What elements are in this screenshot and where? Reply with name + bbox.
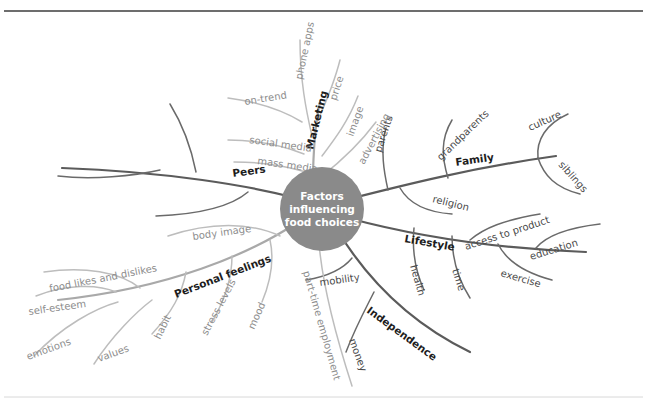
sublabel-time: time — [450, 267, 467, 292]
sublabel-culture: culture — [526, 109, 562, 133]
sublabel-emotions: emotions — [25, 336, 72, 362]
mind-map-canvas: Family parents grandparents culture sibl… — [0, 0, 647, 402]
sublabel-habit: habit — [152, 313, 173, 341]
sublabel-phone-apps: phone apps — [293, 21, 316, 81]
center-label-line3: food choices — [285, 216, 359, 228]
sublabel-food-likes-and-dislikes: food likes and dislikes — [48, 262, 158, 294]
sublabel-money: money — [347, 337, 369, 373]
sublabel-religion: religion — [432, 193, 471, 213]
sublabel-health: health — [408, 264, 427, 297]
subbranch-line-social-activities — [170, 104, 196, 172]
subbranch-line-peer-acceptance — [156, 192, 248, 216]
branch-label-independence: Independence — [365, 304, 440, 363]
branch-label-family: Family — [455, 151, 495, 168]
sublabel-image: image — [345, 105, 366, 138]
subbranch-line-mood — [262, 240, 272, 302]
sublabel-self-esteem: self-esteem — [28, 298, 87, 317]
sublabel-price: price — [327, 75, 345, 102]
sublabel-social-media: social media — [249, 134, 313, 154]
sublabel-exercise: exercise — [499, 267, 542, 289]
mind-map-diagram: Family parents grandparents culture sibl… — [0, 0, 647, 402]
center-label-line1: Factors — [300, 190, 344, 202]
sublabel-siblings: siblings — [557, 159, 590, 194]
center-label-line2: influencing — [289, 203, 355, 215]
sublabel-on-trend: on-trend — [244, 89, 288, 107]
sublabel-mobility: mobility — [319, 271, 361, 288]
sublabel-mood: mood — [246, 300, 268, 330]
sublabel-education: education — [528, 237, 579, 262]
sublabel-values: values — [96, 342, 130, 363]
branch-line-family — [345, 156, 556, 200]
